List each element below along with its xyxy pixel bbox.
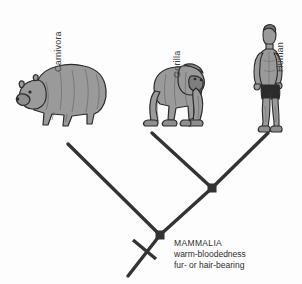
clade-trait-fur-or-hair-bearing: fur- or hair-bearing [174,260,298,271]
human-illustration [249,22,291,134]
node-marker-gorilla-human [208,184,217,193]
node-marker-root [156,231,165,240]
branch-human [212,133,268,188]
branch-carnivora [68,144,160,235]
cladogram-figure: Carnivora Gorilla Human MAMMALIA warm-bl… [0,0,302,284]
taxon-label-human: Human [275,42,285,72]
branch-gorilla [152,133,212,188]
branch-internal-mammalia [160,188,212,235]
clade-name-mammalia: MAMMALIA [174,238,298,249]
clade-annotation: MAMMALIA warm-bloodedness fur- or hair-b… [174,238,298,271]
clade-trait-warm-bloodedness: warm-bloodedness [174,249,298,260]
taxon-label-gorilla: Gorilla [172,51,182,78]
taxon-label-carnivora: Carnivora [53,31,63,72]
